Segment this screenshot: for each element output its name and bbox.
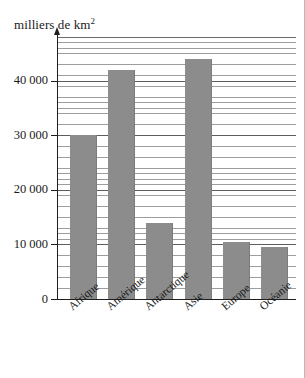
y-axis-tick-label: 40 000 bbox=[0, 74, 48, 87]
y-axis-tick-mark bbox=[51, 299, 57, 300]
bar-amrique bbox=[108, 70, 135, 299]
y-axis-tick-mark bbox=[51, 135, 57, 136]
bar-chart-figure: milliers de km2 010 00020 00030 00040 00… bbox=[0, 0, 305, 378]
y-axis-tick-mark bbox=[51, 190, 57, 191]
y-axis-tick-label: 10 000 bbox=[0, 238, 48, 251]
bar-asie bbox=[185, 59, 212, 299]
unit-caption-exponent: 2 bbox=[91, 16, 96, 26]
plot-top-rule bbox=[58, 37, 296, 38]
major-gridline bbox=[58, 81, 296, 82]
y-axis-line bbox=[57, 33, 58, 300]
unit-caption-text: milliers de km bbox=[14, 17, 91, 32]
y-axis-tick-mark bbox=[51, 244, 57, 245]
bar-afrique bbox=[70, 135, 97, 299]
y-axis-arrow-icon bbox=[54, 27, 60, 35]
y-axis-tick-label: 20 000 bbox=[0, 183, 48, 196]
plot-area bbox=[58, 37, 296, 299]
y-axis-tick-label: 30 000 bbox=[0, 129, 48, 142]
y-axis-tick-mark bbox=[51, 81, 57, 82]
y-axis-tick-label: 0 bbox=[0, 293, 48, 306]
